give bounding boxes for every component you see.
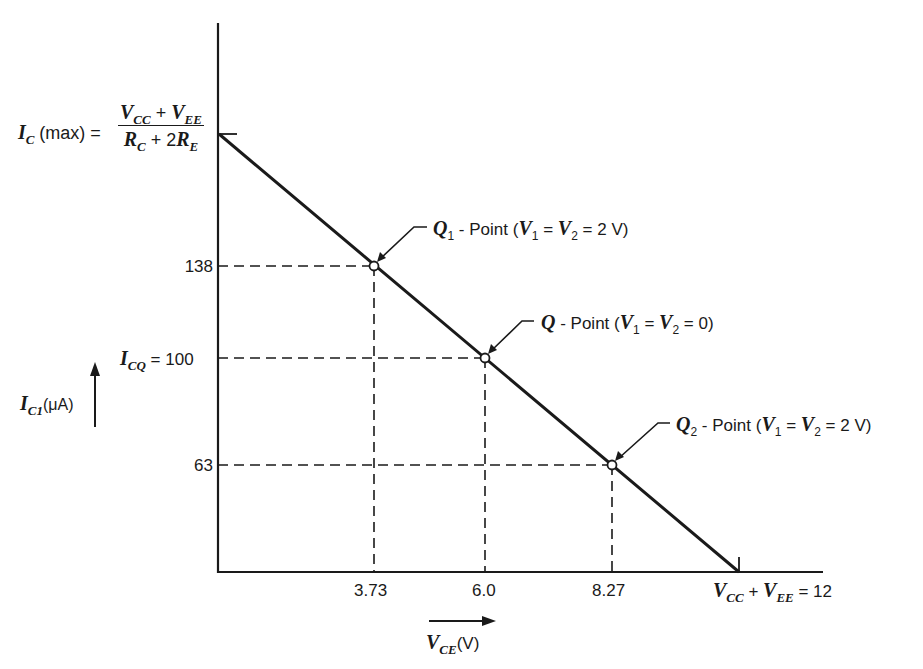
- x-tick-3-73: 3.73: [354, 582, 387, 599]
- load-line-plot: [0, 0, 923, 669]
- ic-max-fraction: VCC + VEE RC + 2RE: [118, 102, 204, 149]
- q2-point-marker: [608, 461, 617, 470]
- y-tick-icq: ICQ = 100: [120, 348, 194, 368]
- q1-point-marker: [370, 262, 379, 271]
- x-axis-label: VCE(V): [426, 632, 479, 652]
- x-tick-6-0: 6.0: [472, 582, 496, 599]
- q-point-annotation: Q - Point (V1 = V2 = 0): [541, 312, 714, 332]
- y-tick-138: 138: [150, 257, 213, 277]
- y-axis-label: IC1(μA): [20, 393, 74, 413]
- x-axis-end-label: VCC + VEE = 12: [713, 580, 832, 600]
- q2-point-annotation: Q2 - Point (V1 = V2 = 2 V): [676, 414, 871, 434]
- y-tick-63: 63: [150, 456, 213, 476]
- x-tick-8-27: 8.27: [592, 582, 625, 599]
- q-point-marker: [481, 354, 490, 363]
- ic-max-label: IC (max) =: [18, 122, 101, 142]
- q1-point-annotation: Q1 - Point (V1 = V2 = 2 V): [433, 218, 628, 238]
- load-line: [219, 134, 739, 572]
